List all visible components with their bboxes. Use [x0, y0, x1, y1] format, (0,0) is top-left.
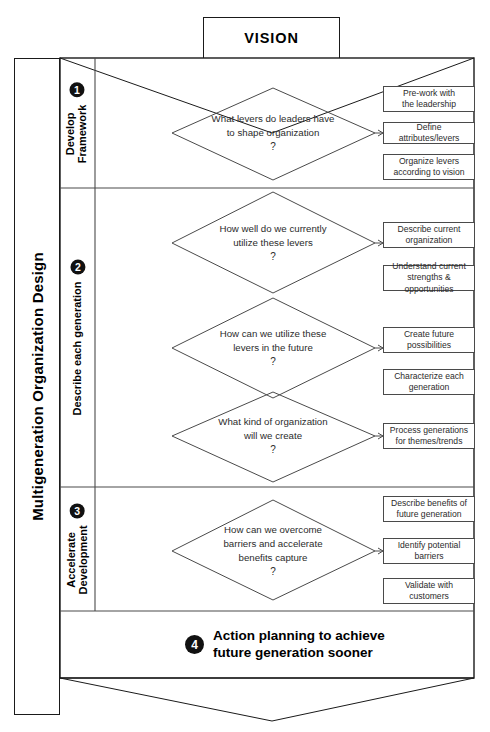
action-8-line2: for themes/trends — [396, 436, 463, 446]
action-4-line2: organization — [406, 235, 453, 245]
phase-2-line1: Describe each generation — [71, 282, 83, 416]
action-5-line2: strengths & opportunities — [404, 272, 453, 293]
phase-2-badge: 2 — [70, 260, 85, 275]
question-4-line1: What kind of organization — [218, 416, 327, 427]
action-box-3[interactable]: Organize leversaccording to vision — [383, 154, 475, 180]
phase-1-line2: Framework — [77, 105, 89, 164]
question-4: What kind of organization will we create… — [203, 413, 343, 459]
action-11-line2: customers — [409, 591, 449, 601]
action-box-11[interactable]: Validate withcustomers — [383, 578, 475, 604]
action-11-line1: Validate with — [405, 580, 453, 590]
action-3-line2: according to vision — [393, 167, 464, 177]
action-6-line1: Create future — [404, 329, 454, 339]
question-1-line2: to shape organization — [227, 127, 320, 138]
phase-label-1: Develop Framework 1 — [60, 58, 95, 188]
question-2-line1: How well do we currently — [219, 223, 326, 234]
arrow-5 — [375, 548, 383, 554]
arrow-4 — [375, 433, 383, 439]
action-7-line1: Characterize each — [394, 371, 464, 381]
phase-3-line2: Development — [77, 525, 89, 594]
question-5: How can we overcome barriers and acceler… — [203, 522, 343, 580]
step-4-line1: Action planning to achieve — [213, 628, 385, 643]
main-title-column: Multigeneration Organization Design — [14, 58, 60, 715]
action-9-line2: future generation — [397, 509, 462, 519]
action-2-line1: Define attributes/levers — [399, 122, 460, 143]
phase-1-line1: Develop — [65, 113, 77, 156]
action-box-4[interactable]: Describe currentorganization — [383, 222, 475, 248]
question-1: What levers do leaders have to shape org… — [203, 110, 343, 156]
question-3-mark: ? — [203, 355, 343, 369]
question-2-mark: ? — [203, 250, 343, 264]
action-box-6[interactable]: Create futurepossibilities — [383, 327, 475, 353]
action-box-8[interactable]: Process generationsfor themes/trends — [383, 423, 475, 449]
question-3: How can we utilize these levers in the f… — [203, 325, 343, 371]
action-1-line1: Pre-work with — [403, 88, 455, 98]
action-10-line2: barriers — [414, 551, 443, 561]
question-1-mark: ? — [203, 140, 343, 154]
action-box-9[interactable]: Describe benefits offuture generation — [383, 496, 475, 522]
action-box-10[interactable]: Identify potentialbarriers — [383, 538, 475, 564]
phase-3-badge: 3 — [70, 503, 85, 518]
action-box-1[interactable]: Pre-work withthe leadership — [383, 86, 475, 112]
arrow-2 — [375, 240, 383, 246]
action-box-7[interactable]: Characterize eachgeneration — [383, 369, 475, 395]
action-4-line1: Describe current — [397, 224, 460, 234]
arrow-3 — [375, 345, 383, 351]
action-9-line1: Describe benefits of — [391, 498, 467, 508]
action-5-line1: Understand current — [392, 261, 466, 271]
action-6-line2: possibilities — [407, 340, 451, 350]
question-2: How well do we currently utilize these l… — [203, 220, 343, 266]
funnel-bottom-right — [272, 678, 474, 721]
question-5-line2: barriers and accelerate — [223, 538, 322, 549]
vision-label: VISION — [244, 30, 299, 46]
action-7-line2: generation — [409, 382, 450, 392]
vision-box: VISION — [203, 17, 340, 58]
action-1-line2: the leadership — [402, 99, 456, 109]
action-8-line1: Process generations — [390, 425, 468, 435]
action-10-line1: Identify potential — [398, 540, 461, 550]
page-title: Multigeneration Organization Design — [29, 252, 46, 521]
diagram-canvas: VISION Multigeneration Organization Desi… — [0, 0, 490, 732]
step-4-line2: future generation sooner — [213, 645, 373, 660]
question-4-mark: ? — [203, 443, 343, 457]
phase-label-3: Accelerate Development 3 — [60, 487, 95, 611]
phase-label-2: Describe each generation 2 — [60, 188, 95, 487]
question-3-line2: levers in the future — [233, 342, 313, 353]
step-4-banner: 4 Action planning to achieve future gene… — [96, 611, 474, 678]
action-3-line1: Organize levers — [399, 156, 459, 166]
question-1-line1: What levers do leaders have — [212, 113, 335, 124]
funnel-bottom-left — [60, 678, 272, 721]
action-box-2[interactable]: Define attributes/levers — [383, 122, 475, 144]
action-box-5[interactable]: Understand currentstrengths & opportunit… — [383, 265, 475, 291]
step-4-badge: 4 — [185, 635, 204, 654]
question-4-line2: will we create — [244, 430, 302, 441]
question-2-line2: utilize these levers — [233, 237, 313, 248]
question-3-line1: How can we utilize these — [220, 328, 327, 339]
phase-3-line1: Accelerate — [65, 532, 77, 588]
question-5-line3: benefits capture — [239, 552, 308, 563]
question-5-mark: ? — [203, 565, 343, 579]
phase-1-badge: 1 — [70, 83, 85, 98]
arrow-1 — [375, 130, 383, 136]
question-5-line1: How can we overcome — [224, 524, 322, 535]
